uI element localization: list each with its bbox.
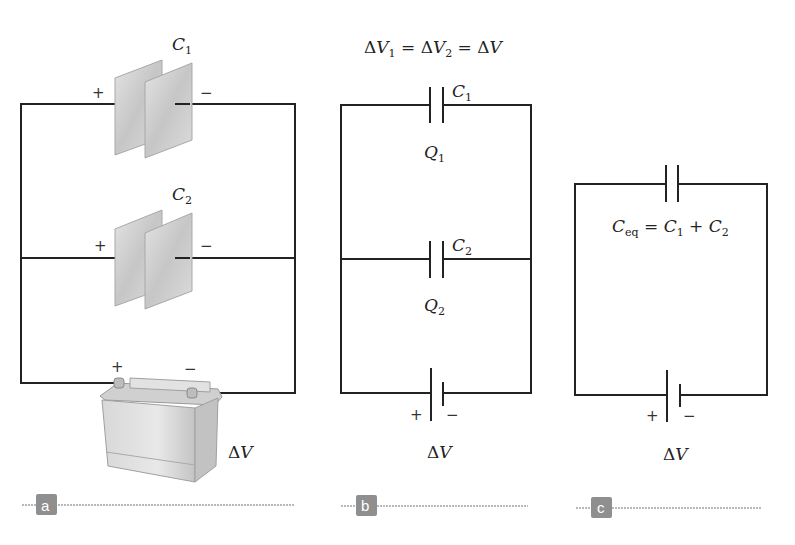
- label-q1: Q1: [424, 142, 445, 165]
- capacitor-c2-symbol: [430, 241, 443, 278]
- plus-sign-battery-b: +: [410, 406, 423, 424]
- label-delta-v-a: ΔV: [228, 442, 254, 462]
- panel-a: C1 + − C2 + − + − ΔV a: [21, 34, 295, 515]
- panel-tag-b-label: b: [361, 497, 369, 514]
- battery-symbol-c: [667, 370, 680, 422]
- label-delta-v-c: ΔV: [663, 444, 689, 464]
- minus-sign-c2: −: [200, 237, 213, 255]
- minus-sign-battery-b: −: [446, 406, 459, 424]
- battery-symbol-b: [431, 368, 443, 421]
- plus-sign-battery-a: +: [111, 358, 124, 376]
- capacitor-c1-plates: [115, 60, 192, 158]
- panel-tag-a-label: a: [41, 497, 50, 514]
- equation-ceq: Ceq = C1 + C2: [612, 216, 729, 239]
- label-c1: C1: [172, 34, 192, 57]
- circuit-figure: C1 + − C2 + − + − ΔV a ΔV1 = ΔV2: [0, 0, 795, 545]
- plus-sign-c2: +: [94, 237, 107, 255]
- car-battery-icon: [100, 378, 222, 482]
- minus-sign-battery-c: −: [683, 407, 696, 425]
- minus-sign-battery-a: −: [184, 360, 197, 378]
- label-c1-b: C1: [452, 81, 472, 104]
- label-q2: Q2: [424, 295, 445, 318]
- wire-a-right: [175, 104, 295, 393]
- capacitor-ceq-symbol: [666, 165, 678, 202]
- panel-tag-c-label: c: [597, 499, 605, 516]
- minus-sign-c1: −: [200, 84, 213, 102]
- panel-c: Ceq = C1 + C2 + − ΔV c: [575, 165, 767, 518]
- plus-sign-battery-c: +: [646, 407, 659, 425]
- capacitor-c1-symbol: [430, 87, 443, 123]
- equation-voltage: ΔV1 = ΔV2 = ΔV: [364, 37, 504, 60]
- plus-sign-c1: +: [92, 84, 105, 102]
- label-delta-v-b: ΔV: [427, 442, 453, 462]
- capacitor-c2-plates: [115, 210, 192, 309]
- wire-b-left: [341, 105, 430, 393]
- panel-b: ΔV1 = ΔV2 = ΔV C1 Q1 C2 Q2 + − ΔV b: [341, 37, 531, 516]
- label-c2: C2: [172, 184, 192, 207]
- label-c2-b: C2: [452, 235, 472, 258]
